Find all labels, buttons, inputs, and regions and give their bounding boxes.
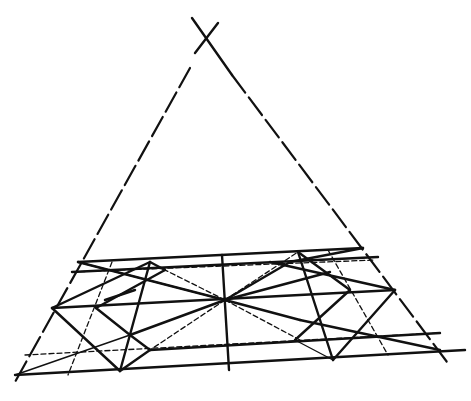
line-diag-c-ul (165, 270, 225, 300)
line-diag-c-r (225, 300, 300, 320)
line-diag-rr-a (295, 290, 350, 340)
perspective-diagram (0, 0, 471, 401)
line-diag-c-bl-dash (150, 300, 225, 350)
line-apex-cross-a (192, 18, 232, 75)
line-diag-c-r-dash (225, 300, 300, 340)
line-right-side (232, 75, 450, 366)
line-diag-inner-b (130, 335, 150, 350)
line-diag-c-ur-dash (225, 252, 298, 300)
line-h-bottom (15, 350, 465, 375)
line-diag-flare-a (105, 290, 135, 300)
center-point (223, 298, 227, 302)
line-v-center (222, 255, 229, 370)
line-diag-c-bl (130, 300, 225, 335)
diagram-svg (0, 0, 471, 401)
line-diag-rr-b (333, 290, 395, 360)
line-diag-inner-a (96, 308, 130, 335)
line-left-side (15, 68, 190, 382)
